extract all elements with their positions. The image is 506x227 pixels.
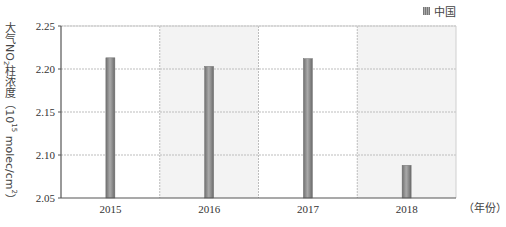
y-title-part: NO [3,44,16,61]
x-tick-label: 2018 [396,203,419,215]
y-tick-label: 2.05 [36,192,56,204]
y-title-part: ） [3,194,16,205]
bar-2018 [402,165,411,198]
bar-2017 [303,59,312,198]
y-tick-label: 2.15 [36,106,56,118]
y-title-part: 柱浓度（10 [3,65,16,123]
y-axis-ticks: 2.052.102.152.202.25 [36,20,61,204]
y-tick-label: 2.25 [36,20,56,32]
x-tick-label: 2017 [297,203,320,215]
y-axis-title: 大气NO2柱浓度（1015 molec/cm2） [2,22,18,192]
bar-chart: 2.052.102.152.202.25 2015201620172018 [0,0,506,227]
x-tick-label: 2016 [198,203,221,215]
bar-2016 [205,66,214,198]
y-title-part: 大气 [3,22,16,44]
y-title-superscript: 15 [10,123,18,132]
y-tick-label: 2.20 [36,63,56,75]
y-tick-label: 2.10 [36,149,56,161]
legend: 中国 [423,3,456,19]
x-axis-ticks: 2015201620172018 [99,203,418,215]
x-tick-label: 2015 [99,203,122,215]
x-axis-unit-label: （年份） [463,199,506,215]
bar-2015 [106,58,115,198]
legend-label: 中国 [434,3,456,19]
legend-swatch-icon [423,7,430,15]
y-title-unit: molec/cm [3,132,16,189]
